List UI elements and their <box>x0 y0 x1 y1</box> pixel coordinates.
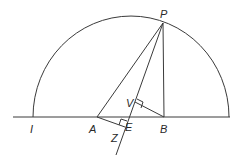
label-p: P <box>160 8 168 20</box>
line-pe-extended <box>116 23 163 155</box>
label-v: V <box>126 97 135 109</box>
segment-vb <box>135 102 164 117</box>
geometry-diagram: P I A E B V Z <box>0 0 233 162</box>
label-b: B <box>160 123 167 135</box>
label-a: A <box>88 123 96 135</box>
label-i: I <box>30 123 33 135</box>
segment-pb <box>163 23 164 117</box>
label-z: Z <box>110 132 119 144</box>
label-e: E <box>125 121 133 133</box>
